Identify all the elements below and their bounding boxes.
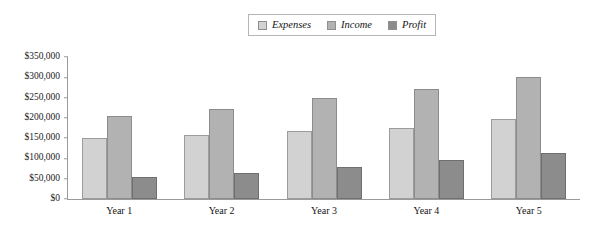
bar-income-year-3	[312, 98, 337, 199]
legend-swatch-income-icon	[327, 21, 336, 30]
y-axis-tick-label: $100,000	[24, 154, 64, 164]
bar-group	[287, 57, 362, 199]
x-axis-label: Year 1	[106, 206, 132, 216]
y-axis-tick: $50,000	[29, 174, 68, 184]
y-axis-tick: $100,000	[24, 154, 68, 164]
y-axis-tick-label: $300,000	[24, 73, 64, 83]
bar-group	[82, 57, 157, 199]
y-axis-tick: $150,000	[24, 133, 68, 143]
legend-label-income: Income	[341, 20, 372, 31]
x-axis-label: Year 4	[413, 206, 439, 216]
legend-label-expenses: Expenses	[272, 20, 311, 31]
y-axis-tick-mark	[64, 97, 68, 98]
legend-item-expenses: Expenses	[258, 20, 311, 31]
legend-item-profit: Profit	[388, 20, 426, 31]
y-axis-tick: $300,000	[24, 73, 68, 83]
y-axis-tick-mark	[64, 57, 68, 58]
bar-expenses-year-4	[389, 128, 414, 199]
y-axis-tick: $0	[51, 194, 69, 204]
y-axis-tick-label: $150,000	[24, 133, 64, 143]
legend-item-income: Income	[327, 20, 372, 31]
legend-swatch-expenses-icon	[258, 21, 267, 30]
bar-chart: Expenses Income Profit $0$50,000$100,000…	[0, 0, 613, 227]
bar-profit-year-3	[337, 167, 362, 199]
y-axis-tick-mark	[64, 178, 68, 179]
y-axis-tick: $200,000	[24, 113, 68, 123]
x-axis-label: Year 3	[311, 206, 337, 216]
bar-income-year-4	[414, 89, 439, 199]
bar-expenses-year-3	[287, 131, 312, 199]
chart-legend: Expenses Income Profit	[248, 14, 436, 36]
bar-expenses-year-5	[491, 119, 516, 199]
bar-profit-year-2	[234, 173, 259, 199]
bar-group	[184, 57, 259, 199]
legend-label-profit: Profit	[402, 20, 426, 31]
y-axis-tick-mark	[64, 199, 68, 200]
bar-income-year-5	[516, 77, 541, 199]
bar-profit-year-1	[132, 177, 157, 199]
x-axis-label: Year 5	[516, 206, 542, 216]
x-axis-line	[67, 199, 580, 200]
bar-group	[491, 57, 566, 199]
legend-swatch-profit-icon	[388, 21, 397, 30]
y-axis-tick: $350,000	[24, 52, 68, 62]
bar-expenses-year-2	[184, 135, 209, 199]
y-axis-tick-label: $200,000	[24, 113, 64, 123]
x-axis-label: Year 2	[209, 206, 235, 216]
y-axis-tick-mark	[64, 117, 68, 118]
bar-income-year-2	[209, 109, 234, 199]
bar-expenses-year-1	[82, 138, 107, 199]
bar-profit-year-4	[439, 160, 464, 199]
y-axis-tick-label: $250,000	[24, 93, 64, 103]
y-axis-tick-label: $50,000	[29, 174, 64, 184]
y-axis-tick-mark	[64, 158, 68, 159]
y-axis-tick-label: $0	[51, 194, 65, 204]
plot-area: $0$50,000$100,000$150,000$200,000$250,00…	[68, 57, 580, 199]
y-axis-tick-mark	[64, 77, 68, 78]
y-axis-tick: $250,000	[24, 93, 68, 103]
bar-group	[389, 57, 464, 199]
bar-profit-year-5	[541, 153, 566, 199]
bar-income-year-1	[107, 116, 132, 199]
y-axis-tick-label: $350,000	[24, 52, 64, 62]
y-axis-tick-mark	[64, 138, 68, 139]
